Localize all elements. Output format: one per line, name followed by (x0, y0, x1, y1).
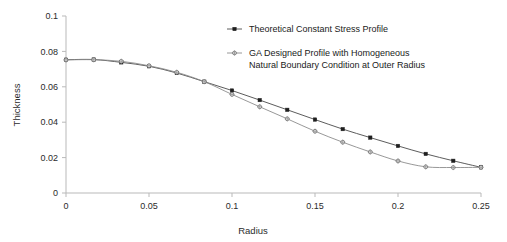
data-point-s0-6 (230, 89, 233, 92)
x-axis: 00.050.10.150.20.25 (63, 193, 489, 211)
y-tick-label-5: 0.1 (45, 11, 58, 21)
data-point-s0-7 (258, 98, 261, 101)
y-axis: 00.020.040.060.080.1 (40, 11, 66, 198)
data-point-s0-10 (341, 127, 344, 130)
series-line-0 (66, 59, 481, 167)
chart-container: 00.020.040.060.080.1 00.050.10.150.20.25… (0, 0, 507, 242)
y-tick-label-group: 00.020.040.060.080.1 (40, 11, 58, 198)
x-tick-label-5: 0.25 (472, 201, 490, 211)
x-axis-title: Radius (238, 225, 268, 236)
x-tick-group (66, 193, 481, 197)
data-point-s0-9 (313, 118, 316, 121)
x-tick-label-1: 0.05 (140, 201, 158, 211)
legend-label-1-line-0: GA Designed Profile with Homogeneous (249, 48, 410, 58)
y-tick-label-1: 0.02 (40, 153, 58, 163)
chart-legend: Theoretical Constant Stress ProfileGA De… (227, 24, 426, 70)
data-point-s0-11 (369, 136, 372, 139)
series-1 (63, 57, 483, 170)
x-tick-label-3: 0.15 (306, 201, 324, 211)
data-point-s0-14 (452, 159, 455, 162)
x-tick-label-group: 00.050.10.150.20.25 (63, 201, 489, 211)
x-tick-label-0: 0 (63, 201, 68, 211)
y-tick-label-2: 0.04 (40, 117, 58, 127)
series-0 (64, 58, 482, 169)
y-tick-group (62, 16, 66, 193)
legend-entry-1[interactable]: GA Designed Profile with HomogeneousNatu… (227, 48, 426, 70)
series-layer (63, 57, 483, 170)
line-chart: 00.020.040.060.080.1 00.050.10.150.20.25… (0, 0, 507, 242)
x-tick-label-2: 0.1 (226, 201, 239, 211)
data-point-s0-12 (396, 144, 399, 147)
data-point-s0-legend (233, 27, 236, 30)
data-point-s0-8 (286, 108, 289, 111)
y-tick-label-4: 0.08 (40, 47, 58, 57)
legend-entry-0[interactable]: Theoretical Constant Stress Profile (227, 24, 388, 34)
y-tick-label-0: 0 (53, 188, 58, 198)
legend-label-0-line-0: Theoretical Constant Stress Profile (249, 24, 388, 34)
x-tick-label-4: 0.2 (392, 201, 405, 211)
series-line-1 (66, 60, 481, 168)
y-tick-label-3: 0.06 (40, 82, 58, 92)
legend-label-1-line-1: Natural Boundary Condition at Outer Radi… (249, 60, 426, 70)
data-point-s0-13 (424, 152, 427, 155)
y-axis-title: Thickness (11, 83, 22, 126)
